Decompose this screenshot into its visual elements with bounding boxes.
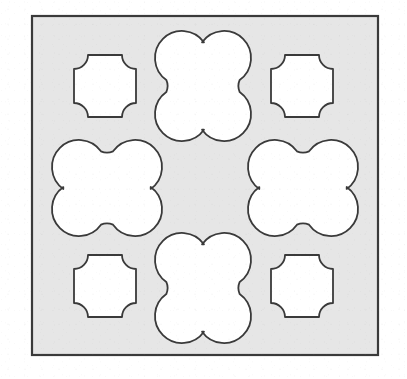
geometric-figure-svg: Concave crossVertical four-lobed cloverC… (0, 0, 407, 379)
figure-root: Concave crossVertical four-lobed cloverC… (0, 0, 407, 379)
concave-cross-top-right: Concave cross (271, 55, 333, 117)
vertical-clover-bottom-center: Vertical four-lobed clover (155, 233, 251, 343)
concave-cross-top-left: Concave cross (74, 55, 136, 117)
horizontal-clover-middle-left: Horizontal four-lobed clover (52, 140, 162, 236)
horizontal-clover-middle-right: Horizontal four-lobed clover (248, 140, 358, 236)
concave-cross-bottom-left: Concave cross (74, 255, 136, 317)
concave-cross-bottom-right: Concave cross (271, 255, 333, 317)
vertical-clover-top-center: Vertical four-lobed clover (155, 31, 251, 141)
